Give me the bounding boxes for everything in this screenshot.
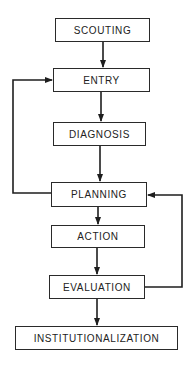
feedback-evaluation-to-planning bbox=[145, 195, 182, 287]
node-label: DIAGNOSIS bbox=[69, 129, 130, 140]
node-diagnosis: DIAGNOSIS bbox=[53, 122, 146, 146]
feedback-planning-to-entry bbox=[13, 80, 52, 193]
node-entry: ENTRY bbox=[53, 68, 150, 92]
node-planning: PLANNING bbox=[51, 182, 147, 207]
node-label: SCOUTING bbox=[74, 25, 132, 36]
node-label: ENTRY bbox=[83, 75, 120, 86]
node-label: PLANNING bbox=[71, 189, 127, 200]
node-action: ACTION bbox=[51, 225, 145, 248]
flowchart-diagram: SCOUTING ENTRY DIAGNOSIS PLANNING ACTION… bbox=[0, 0, 193, 365]
node-institutionalization: INSTITUTIONALIZATION bbox=[15, 326, 178, 350]
node-scouting: SCOUTING bbox=[55, 18, 150, 42]
node-label: INSTITUTIONALIZATION bbox=[34, 333, 160, 344]
node-label: EVALUATION bbox=[63, 282, 131, 293]
node-evaluation: EVALUATION bbox=[49, 275, 145, 299]
node-label: ACTION bbox=[77, 231, 118, 242]
